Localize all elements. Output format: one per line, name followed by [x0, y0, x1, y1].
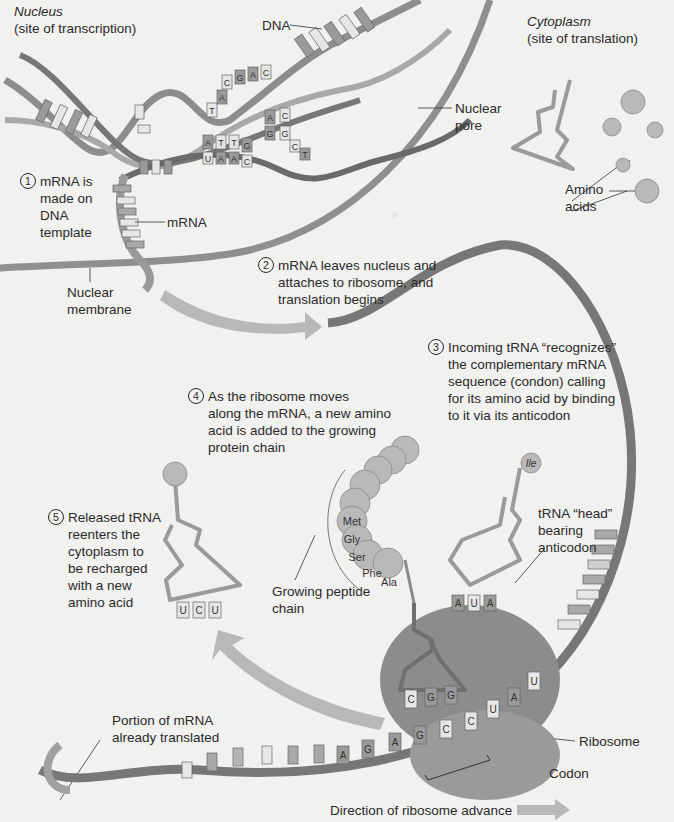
released-trna-head [163, 462, 187, 486]
svg-text:A: A [511, 692, 518, 703]
step-4-number: 4 [188, 388, 204, 404]
direction-label: Direction of ribosome advance [330, 802, 512, 819]
svg-text:Gly: Gly [344, 533, 361, 545]
step-1-number: 1 [20, 173, 36, 189]
svg-text:A: A [487, 598, 494, 609]
svg-text:Phe: Phe [362, 567, 382, 579]
released-trna [165, 480, 240, 600]
ribosome-label: Ribosome [579, 733, 640, 750]
svg-text:U: U [489, 704, 496, 715]
step-4: 4 As the ribosome moves along the mRNA, … [188, 388, 391, 456]
svg-text:C: C [467, 716, 474, 727]
svg-text:A: A [231, 154, 237, 164]
svg-text:U: U [470, 598, 477, 609]
nucleus-subtitle: (site of transcription) [14, 20, 136, 37]
step-1-text: mRNA is made on DNA template [40, 173, 93, 241]
step-2: 2 mRNA leaves nucleus and attaches to ri… [258, 257, 436, 308]
mrna-label: mRNA [167, 214, 207, 231]
portion-translated-label: Portion of mRNA already translated [112, 712, 219, 746]
svg-text:T: T [302, 150, 308, 160]
step-3-number: 3 [428, 339, 444, 355]
svg-text:Ile: Ile [526, 458, 537, 469]
svg-text:Ser: Ser [348, 551, 365, 563]
svg-text:G: G [416, 730, 424, 741]
svg-text:T: T [231, 138, 237, 148]
growing-peptide-label: Growing peptide chain [272, 583, 370, 617]
svg-text:G: G [243, 141, 250, 151]
svg-text:A: A [219, 93, 225, 103]
step-5-text: Released tRNA reenters the cytoplasm to … [68, 509, 161, 611]
svg-text:A: A [455, 598, 462, 609]
step-3-text: Incoming tRNA “recognizes” the complemen… [448, 339, 616, 424]
svg-text:U: U [205, 154, 212, 164]
svg-text:G: G [281, 129, 288, 139]
nucleus-title: Nucleus [14, 3, 63, 20]
cytoplasm-title: Cytoplasm [527, 13, 591, 30]
incoming-trna [450, 468, 520, 585]
svg-text:A: A [340, 750, 347, 761]
svg-text:C: C [442, 724, 449, 735]
trna-head-label: tRNA “head” bearing anticodon [538, 505, 612, 556]
codon-label: Codon [549, 765, 589, 782]
nuclear-membrane-label: Nuclear membrane [67, 284, 132, 318]
svg-text:G: G [364, 744, 372, 755]
svg-text:U: U [179, 605, 186, 616]
svg-text:G: G [236, 73, 243, 83]
cytoplasm-subtitle: (site of translation) [527, 30, 638, 47]
svg-text:U: U [211, 605, 218, 616]
svg-text:C: C [224, 78, 231, 88]
step-3: 3 Incoming tRNA “recognizes” the complem… [428, 339, 616, 424]
dna-label: DNA [262, 17, 291, 34]
step-4-text: As the ribosome moves along the mRNA, a … [208, 388, 391, 456]
step-1: 1 mRNA is made on DNA template [20, 173, 93, 241]
step-2-text: mRNA leaves nucleus and attaches to ribo… [278, 257, 436, 308]
svg-text:A: A [250, 70, 256, 80]
svg-text:G: G [266, 129, 273, 139]
svg-text:T: T [209, 106, 215, 116]
svg-text:A: A [218, 154, 224, 164]
amino-acids-label: Amino acids [565, 181, 603, 215]
svg-text:U: U [530, 676, 537, 687]
svg-text:C: C [195, 605, 202, 616]
svg-text:Met: Met [343, 515, 361, 527]
free-trna [513, 80, 573, 169]
arrow-release [212, 630, 385, 730]
step-5-number: 5 [48, 509, 64, 525]
translation-diagram: TAC GAC ATTG UAAC AC [0, 0, 674, 822]
svg-text:C: C [292, 142, 299, 152]
svg-text:C: C [282, 111, 289, 121]
nuclear-pore-label: Nuclear pore [455, 100, 502, 134]
step-2-number: 2 [258, 257, 274, 273]
svg-text:C: C [407, 694, 414, 705]
svg-text:Ala: Ala [381, 576, 398, 588]
svg-text:A: A [205, 138, 211, 148]
svg-text:T: T [218, 138, 224, 148]
step-5: 5 Released tRNA reenters the cytoplasm t… [48, 509, 161, 611]
svg-text:G: G [447, 690, 455, 701]
svg-text:G: G [427, 692, 435, 703]
dna-helix: TAC GAC ATTG UAAC AC [5, 0, 470, 290]
svg-text:C: C [244, 157, 251, 167]
svg-text:A: A [392, 737, 399, 748]
svg-text:C: C [263, 68, 270, 78]
free-amino-acids [603, 90, 663, 203]
direction-arrow [517, 799, 570, 820]
svg-text:A: A [267, 113, 273, 123]
